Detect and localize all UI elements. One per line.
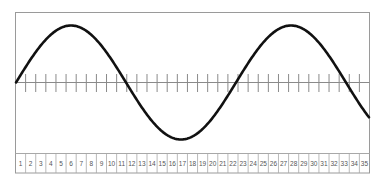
strip-cell-number: 8 bbox=[90, 160, 94, 167]
strip-cell-number: 12 bbox=[128, 160, 136, 167]
strip-cell-number: 5 bbox=[59, 160, 63, 167]
strip-cell-number: 4 bbox=[49, 160, 53, 167]
strip-cell-number: 19 bbox=[199, 160, 207, 167]
strip-cell-number: 13 bbox=[138, 160, 146, 167]
strip-cell-number: 6 bbox=[69, 160, 73, 167]
strip-cell-number: 17 bbox=[179, 160, 187, 167]
strip-cell-number: 16 bbox=[169, 160, 177, 167]
strip-cell-number: 1 bbox=[19, 160, 23, 167]
strip-cell-number: 29 bbox=[300, 160, 308, 167]
strip-cell-number: 3 bbox=[39, 160, 43, 167]
strip-cell-number: 21 bbox=[219, 160, 227, 167]
sine-wave-diagram: 1234567891011121314151617181920212223242… bbox=[0, 0, 381, 179]
strip-cell-number: 28 bbox=[290, 160, 298, 167]
strip-cell-number: 23 bbox=[239, 160, 247, 167]
strip-cell-number: 31 bbox=[320, 160, 328, 167]
strip-cell-number: 15 bbox=[159, 160, 167, 167]
strip-cell-number: 26 bbox=[270, 160, 278, 167]
strip-cell-number: 14 bbox=[148, 160, 156, 167]
diagram-canvas: 1234567891011121314151617181920212223242… bbox=[0, 0, 381, 179]
strip-cell-number: 24 bbox=[250, 160, 258, 167]
strip-cell-number: 25 bbox=[260, 160, 268, 167]
strip-cell-number: 10 bbox=[108, 160, 116, 167]
number-strip: 1234567891011121314151617181920212223242… bbox=[16, 154, 370, 174]
diagram-frame bbox=[16, 13, 370, 174]
strip-cell-number: 18 bbox=[189, 160, 197, 167]
strip-cell-number: 11 bbox=[118, 160, 125, 167]
strip-cell-number: 30 bbox=[310, 160, 318, 167]
strip-cell-number: 9 bbox=[100, 160, 104, 167]
strip-cell-number: 32 bbox=[330, 160, 338, 167]
strip-cell-number: 20 bbox=[209, 160, 217, 167]
strip-cell-number: 34 bbox=[351, 160, 359, 167]
strip-cell-number: 2 bbox=[29, 160, 33, 167]
strip-cell-number: 33 bbox=[341, 160, 349, 167]
strip-cell-number: 27 bbox=[280, 160, 288, 167]
strip-cell-number: 35 bbox=[361, 160, 369, 167]
strip-cell-number: 22 bbox=[229, 160, 237, 167]
strip-cell-number: 7 bbox=[79, 160, 83, 167]
